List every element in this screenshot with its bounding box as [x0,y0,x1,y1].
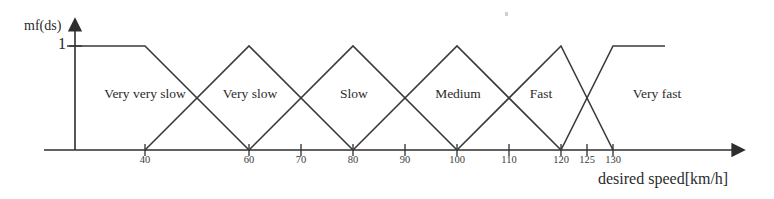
x-tick-label-110: 110 [496,154,522,165]
x-tick-label-130: 130 [600,154,626,165]
x-tick-label-60: 60 [237,154,261,165]
x-tick-label-120: 120 [548,154,574,165]
x-tick-label-80: 80 [341,154,365,165]
set-label-fast: Fast [512,86,570,102]
x-tick-label-40: 40 [133,154,157,165]
x-axis-title: desired speed[km/h] [598,170,728,188]
set-label-very-slow: Very slow [196,86,304,102]
fuzzy-membership-chart: mf(ds) 1 desired speed[km/h] Very very s… [0,0,774,199]
set-label-very-very-slow: Very very slow [82,86,208,102]
x-tick-label-90: 90 [393,154,417,165]
scan-artifact-speck [505,12,508,16]
set-label-slow: Slow [310,86,398,102]
x-tick-label-125: 125 [574,154,600,165]
x-tick-label-70: 70 [289,154,313,165]
set-label-very-fast: Very fast [614,86,700,102]
y-axis-tick-label-1: 1 [58,35,66,53]
set-label-medium: Medium [412,86,504,102]
y-axis-title: mf(ds) [24,18,61,34]
x-tick-label-100: 100 [444,154,470,165]
